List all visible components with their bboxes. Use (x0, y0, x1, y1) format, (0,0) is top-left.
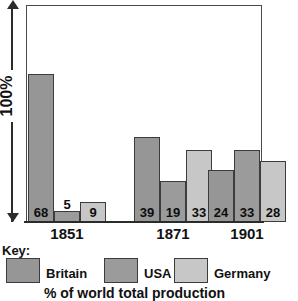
legend-label: USA (144, 266, 171, 281)
key-title: Key: (2, 243, 30, 258)
x-tick-1901: 1901 (196, 225, 298, 242)
arrow-up-icon (7, 0, 19, 9)
legend-label: Britain (46, 266, 87, 281)
bar-1851-britain: 68 (28, 74, 54, 222)
bar-1901-britain: 24 (208, 170, 234, 222)
legend-swatch-germany (174, 258, 208, 283)
chart-legend: BritainUSAGermany (0, 258, 269, 284)
bar-value-label: 19 (161, 206, 185, 220)
bar-value-label: 68 (29, 206, 53, 220)
bar-value-label: 39 (135, 206, 159, 220)
bar-value-label: 9 (81, 206, 105, 220)
bar-1901-usa: 33 (234, 150, 260, 222)
bar-value-label: 33 (235, 206, 259, 220)
y-axis-label: 100% (0, 70, 17, 122)
bars-layer: 6859391933243328 (26, 5, 262, 222)
x-tick-1851: 1851 (16, 225, 118, 242)
bar-1871-britain: 39 (134, 137, 160, 222)
bar-value-label: 28 (261, 206, 285, 220)
chart-caption: % of world total production (0, 285, 269, 301)
bar-value-label: 24 (209, 206, 233, 220)
legend-swatch-usa (104, 258, 138, 283)
bar-1901-germany: 28 (260, 161, 286, 222)
legend-label: Germany (214, 266, 270, 281)
bar-value-label: 5 (55, 198, 79, 212)
bar-1871-usa: 19 (160, 181, 186, 222)
arrow-down-icon (7, 213, 19, 222)
bar-1851-germany: 9 (80, 202, 106, 222)
x-axis-baseline (24, 221, 264, 223)
legend-swatch-britain (6, 258, 40, 283)
